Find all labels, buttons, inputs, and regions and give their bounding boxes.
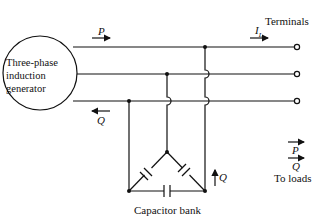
junction-3 [127,99,131,103]
tap-wire-1 [205,47,209,191]
p-top-label: P [98,25,105,37]
terminals-label: Terminals [265,15,309,27]
junction-1 [203,45,207,49]
terminal-3 [294,98,299,103]
circuit-diagram [0,0,325,224]
generator-label-line-1: Three-phase [6,56,58,69]
generator-label-line-3: generator [6,82,58,95]
current-subscript: L [259,31,263,39]
p-load-label: P [292,144,299,156]
to-loads-label: To loads [274,172,311,184]
capacitor-bank-label: Capacitor bank [134,204,201,216]
generator-label-line-2: induction [6,69,58,82]
q-return-label: Q [97,114,105,126]
current-label: IL [255,24,263,41]
q-cap-label: Q [219,171,227,183]
terminal-2 [294,71,299,76]
generator-label: Three-phase induction generator [6,56,58,95]
junction-2 [165,72,169,76]
q-load-label: Q [292,160,300,172]
terminal-1 [294,44,299,49]
tap-wire-2 [167,74,171,152]
